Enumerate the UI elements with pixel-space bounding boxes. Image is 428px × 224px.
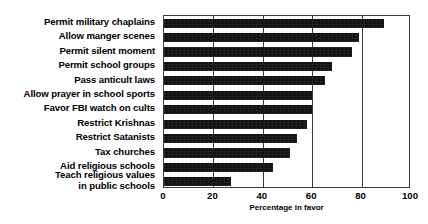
bar: [164, 134, 297, 143]
bar: [164, 91, 312, 100]
x-tick-label: 80: [355, 190, 366, 201]
category-label: Allow prayer in school sports: [24, 89, 155, 100]
category-label: Restrict Krishnas: [77, 118, 155, 129]
bar: [164, 105, 312, 114]
bar: [164, 177, 231, 186]
bar: [164, 148, 290, 157]
x-tick-label: 60: [306, 190, 317, 201]
x-axis-title: Percentage in favor: [163, 203, 410, 212]
x-tick-label: 40: [256, 190, 267, 201]
category-label: Allow manger scenes: [59, 31, 155, 42]
category-label: Permit silent moment: [59, 46, 155, 57]
x-axis-tick-labels: 020406080100: [163, 190, 410, 203]
category-label: Teach religious values in public schools: [55, 170, 155, 191]
bar: [164, 62, 332, 71]
x-tick-label: 0: [160, 190, 165, 201]
category-label: Restrict Satanists: [76, 132, 155, 143]
bar: [164, 47, 352, 56]
category-label: Tax churches: [95, 147, 155, 158]
category-label: Permit school groups: [58, 60, 155, 71]
plot-area: [163, 15, 410, 188]
bar: [164, 19, 384, 28]
category-label: Pass anticult laws: [74, 75, 155, 86]
bar: [164, 163, 273, 172]
bar: [164, 33, 359, 42]
category-label: Permit military chaplains: [44, 17, 155, 28]
bar: [164, 120, 307, 129]
horizontal-bar-chart: Permit military chaplainsAllow manger sc…: [0, 0, 428, 224]
category-axis-labels: Permit military chaplainsAllow manger sc…: [0, 16, 159, 188]
bar: [164, 76, 325, 85]
bars-group: [164, 16, 409, 187]
x-tick-label: 20: [207, 190, 218, 201]
category-label: Favor FBI watch on cults: [44, 103, 155, 114]
x-tick-label: 100: [402, 190, 418, 201]
